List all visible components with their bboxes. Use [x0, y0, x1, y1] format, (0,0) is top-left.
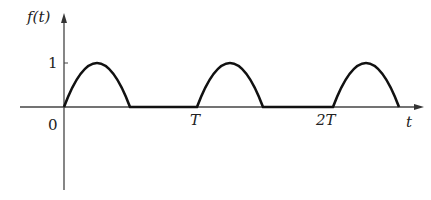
- x-axis-label: t: [406, 115, 412, 130]
- y-axis-label-text: f(t): [27, 8, 50, 26]
- x-tick-label-2T: 2T: [316, 113, 336, 128]
- origin-label: 0: [48, 118, 58, 133]
- x-axis-arrow-icon: [414, 104, 424, 110]
- x-tick-label-T: T: [190, 113, 200, 128]
- y-axis-label: f(t): [27, 10, 50, 25]
- signal-curve: [64, 63, 399, 107]
- chart-canvas: [0, 0, 431, 200]
- y-tick-label-1: 1: [48, 56, 58, 71]
- y-axis-arrow-icon: [61, 13, 67, 23]
